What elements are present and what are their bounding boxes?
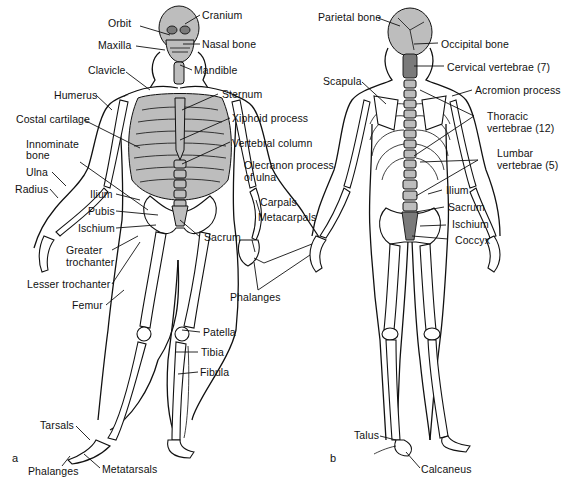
label-maxilla: Maxilla <box>98 39 131 51</box>
label-cranium: Cranium <box>202 9 242 21</box>
label-ischium: Ischium <box>78 222 115 234</box>
label-lumbar-vertebrae-line1: Lumbar <box>497 147 533 159</box>
label-innominate-bone-line2: bone <box>26 149 50 161</box>
anterior-skeleton-figure <box>34 6 322 464</box>
label-nasal-bone: Nasal bone <box>202 38 256 50</box>
label-sternum: Sternum <box>222 88 262 100</box>
label-occipital-bone: Occipital bone <box>441 38 509 50</box>
label-sacrum-posterior: Sacrum <box>448 201 485 213</box>
label-scapula: Scapula <box>323 75 362 87</box>
label-sacrum: Sacrum <box>204 231 241 243</box>
label-ulna: Ulna <box>26 166 48 178</box>
label-mandible: Mandible <box>194 64 237 76</box>
label-lumbar-vertebrae-line2: vertebrae (5) <box>497 159 558 171</box>
skeleton-diagram: Orbit Cranium Maxilla Nasal bone Clavicl… <box>0 0 563 485</box>
label-lesser-trochanter: Lesser trochanter <box>27 278 110 290</box>
label-parietal-bone: Parietal bone <box>318 11 381 23</box>
label-olecranon-process-line2: of ulna <box>244 171 276 183</box>
label-carpals: Carpals <box>260 196 297 208</box>
label-femur: Femur <box>72 299 103 311</box>
panel-letter-a: a <box>12 452 18 464</box>
label-tibia: Tibia <box>201 346 224 358</box>
label-phalanges-foot: Phalanges <box>28 465 79 477</box>
label-orbit: Orbit <box>108 17 131 29</box>
label-radius: Radius <box>15 183 48 195</box>
label-talus: Talus <box>354 429 379 441</box>
label-olecranon-process-line1: Olecranon process <box>244 159 334 171</box>
label-ilium-posterior: Ilium <box>446 184 469 196</box>
label-vertebral-column: Vertebral column <box>232 137 312 149</box>
label-metatarsals: Metatarsals <box>102 463 157 475</box>
label-phalanges-hand: Phalanges <box>230 291 281 303</box>
label-fibula: Fibula <box>200 366 229 378</box>
label-patella: Patella <box>203 326 236 338</box>
label-pubis: Pubis <box>88 205 115 217</box>
label-metacarpals: Metacarpals <box>258 211 316 223</box>
panel-letter-b: b <box>330 452 336 464</box>
label-greater-trochanter-line2: trochanter <box>66 256 114 268</box>
label-tarsals: Tarsals <box>40 419 74 431</box>
label-thoracic-vertebrae-line2: vertebrae (12) <box>487 122 554 134</box>
label-greater-trochanter-line1: Greater <box>66 244 102 256</box>
label-costal-cartilage: Costal cartilage <box>16 113 90 125</box>
label-humerus: Humerus <box>54 89 97 101</box>
label-acromion-process: Acromion process <box>475 84 561 96</box>
label-xiphoid-process: Xiphoid process <box>232 112 308 124</box>
label-clavicle: Clavicle <box>88 64 126 76</box>
label-calcaneus: Calcaneus <box>421 463 472 475</box>
label-ischium-posterior: Ischium <box>452 218 489 230</box>
label-cervical-vertebrae: Cervical vertebrae (7) <box>447 61 550 73</box>
label-ilium: Ilium <box>90 188 113 200</box>
label-coccyx: Coccyx <box>455 234 490 246</box>
label-thoracic-vertebrae-line1: Thoracic <box>487 110 528 122</box>
